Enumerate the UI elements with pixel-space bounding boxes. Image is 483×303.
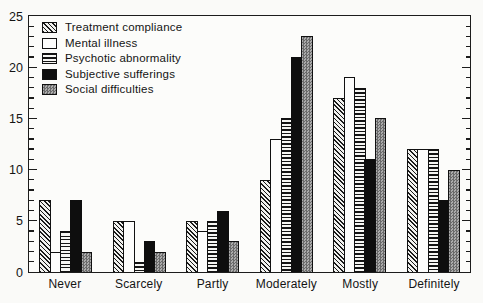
y-tick-left <box>29 108 34 109</box>
y-tick-right <box>466 128 471 129</box>
y-tick-left <box>29 241 34 242</box>
y-tick-right <box>466 56 471 57</box>
y-tick-left <box>29 148 34 149</box>
bar <box>228 241 240 272</box>
y-tick-label: 20 <box>0 60 23 76</box>
legend-item: Psychotic abnormality <box>42 53 182 64</box>
y-tick-right <box>466 36 471 37</box>
y-tick-right <box>466 200 471 201</box>
y-tick-left <box>29 36 34 37</box>
y-tick-left <box>29 261 34 262</box>
y-tick-left <box>29 67 37 68</box>
y-tick-left <box>29 251 34 252</box>
y-axis-labels: 0510152025 <box>0 0 24 303</box>
x-tick-label: Never <box>28 277 102 291</box>
y-tick-left <box>29 87 34 88</box>
diagonal-hatch-swatch-icon <box>42 22 57 33</box>
x-axis-labels: NeverScarcelyPartlyModeratelyMostlyDefin… <box>28 277 471 291</box>
bar-group-moderately <box>250 16 324 272</box>
x-tick-label: Moderately <box>249 277 323 291</box>
y-tick-left <box>29 230 34 231</box>
y-tick-left <box>29 77 34 78</box>
y-tick-left <box>29 159 34 160</box>
bar <box>81 252 93 272</box>
bar <box>375 118 387 272</box>
legend-item: Mental illness <box>42 38 182 49</box>
y-tick-right <box>466 87 471 88</box>
legend-item: Social difficulties <box>42 84 182 95</box>
y-tick-left <box>29 26 34 27</box>
y-tick-right <box>462 220 470 221</box>
solid-black-swatch-icon <box>42 69 57 80</box>
horizontal-lines-swatch-icon <box>42 53 57 64</box>
y-tick-right <box>466 148 471 149</box>
y-tick-label: 15 <box>0 111 23 127</box>
x-tick-label: Partly <box>176 277 250 291</box>
y-tick-right <box>466 26 471 27</box>
gray-dither-swatch-icon <box>42 84 57 95</box>
x-tick-label: Scarcely <box>102 277 176 291</box>
bar <box>154 252 166 272</box>
y-tick-label: 25 <box>0 9 23 25</box>
y-tick-right <box>466 210 471 211</box>
y-tick-label: 0 <box>0 265 23 281</box>
y-tick-left <box>29 220 37 221</box>
legend-item: Treatment compliance <box>42 22 182 33</box>
y-tick-left <box>29 179 34 180</box>
y-tick-right <box>466 77 471 78</box>
y-tick-right <box>462 169 470 170</box>
y-tick-left <box>29 97 34 98</box>
legend-label: Subjective sufferings <box>65 69 175 80</box>
y-tick-right <box>466 97 471 98</box>
y-tick-right <box>466 179 471 180</box>
y-tick-left <box>29 169 37 170</box>
y-tick-right <box>466 251 471 252</box>
bar-group-definitely <box>397 16 471 272</box>
y-tick-left <box>29 118 37 119</box>
y-tick-right <box>462 67 470 68</box>
y-tick-left <box>29 210 34 211</box>
y-tick-left <box>29 189 34 190</box>
y-tick-right <box>466 241 471 242</box>
x-tick-label: Mostly <box>323 277 397 291</box>
y-tick-right <box>466 159 471 160</box>
y-tick-label: 5 <box>0 213 23 229</box>
y-tick-left <box>29 56 34 57</box>
y-tick-left <box>29 200 34 201</box>
legend: Treatment complianceMental illnessPsycho… <box>42 22 182 95</box>
y-tick-right <box>466 230 471 231</box>
y-tick-right <box>466 189 471 190</box>
y-tick-right <box>466 261 471 262</box>
y-tick-right <box>466 108 471 109</box>
bar <box>448 170 460 272</box>
bar-group-mostly <box>323 16 397 272</box>
bar <box>301 36 313 272</box>
legend-label: Psychotic abnormality <box>65 53 181 64</box>
legend-item: Subjective sufferings <box>42 69 182 80</box>
y-tick-right <box>466 46 471 47</box>
bar-chart-figure: 0510152025 Treatment complianceMental il… <box>0 0 483 303</box>
bar-group-partly <box>176 16 250 272</box>
legend-label: Treatment compliance <box>65 22 182 33</box>
y-tick-right <box>462 118 470 119</box>
y-tick-label: 10 <box>0 162 23 178</box>
y-tick-left <box>29 138 34 139</box>
y-tick-left <box>29 46 34 47</box>
y-tick-left <box>29 128 34 129</box>
legend-label: Social difficulties <box>65 84 154 95</box>
plot-area: Treatment complianceMental illnessPsycho… <box>28 15 471 273</box>
x-tick-label: Definitely <box>397 277 471 291</box>
y-tick-right <box>466 138 471 139</box>
legend-label: Mental illness <box>65 38 137 49</box>
white-swatch-icon <box>42 38 57 49</box>
